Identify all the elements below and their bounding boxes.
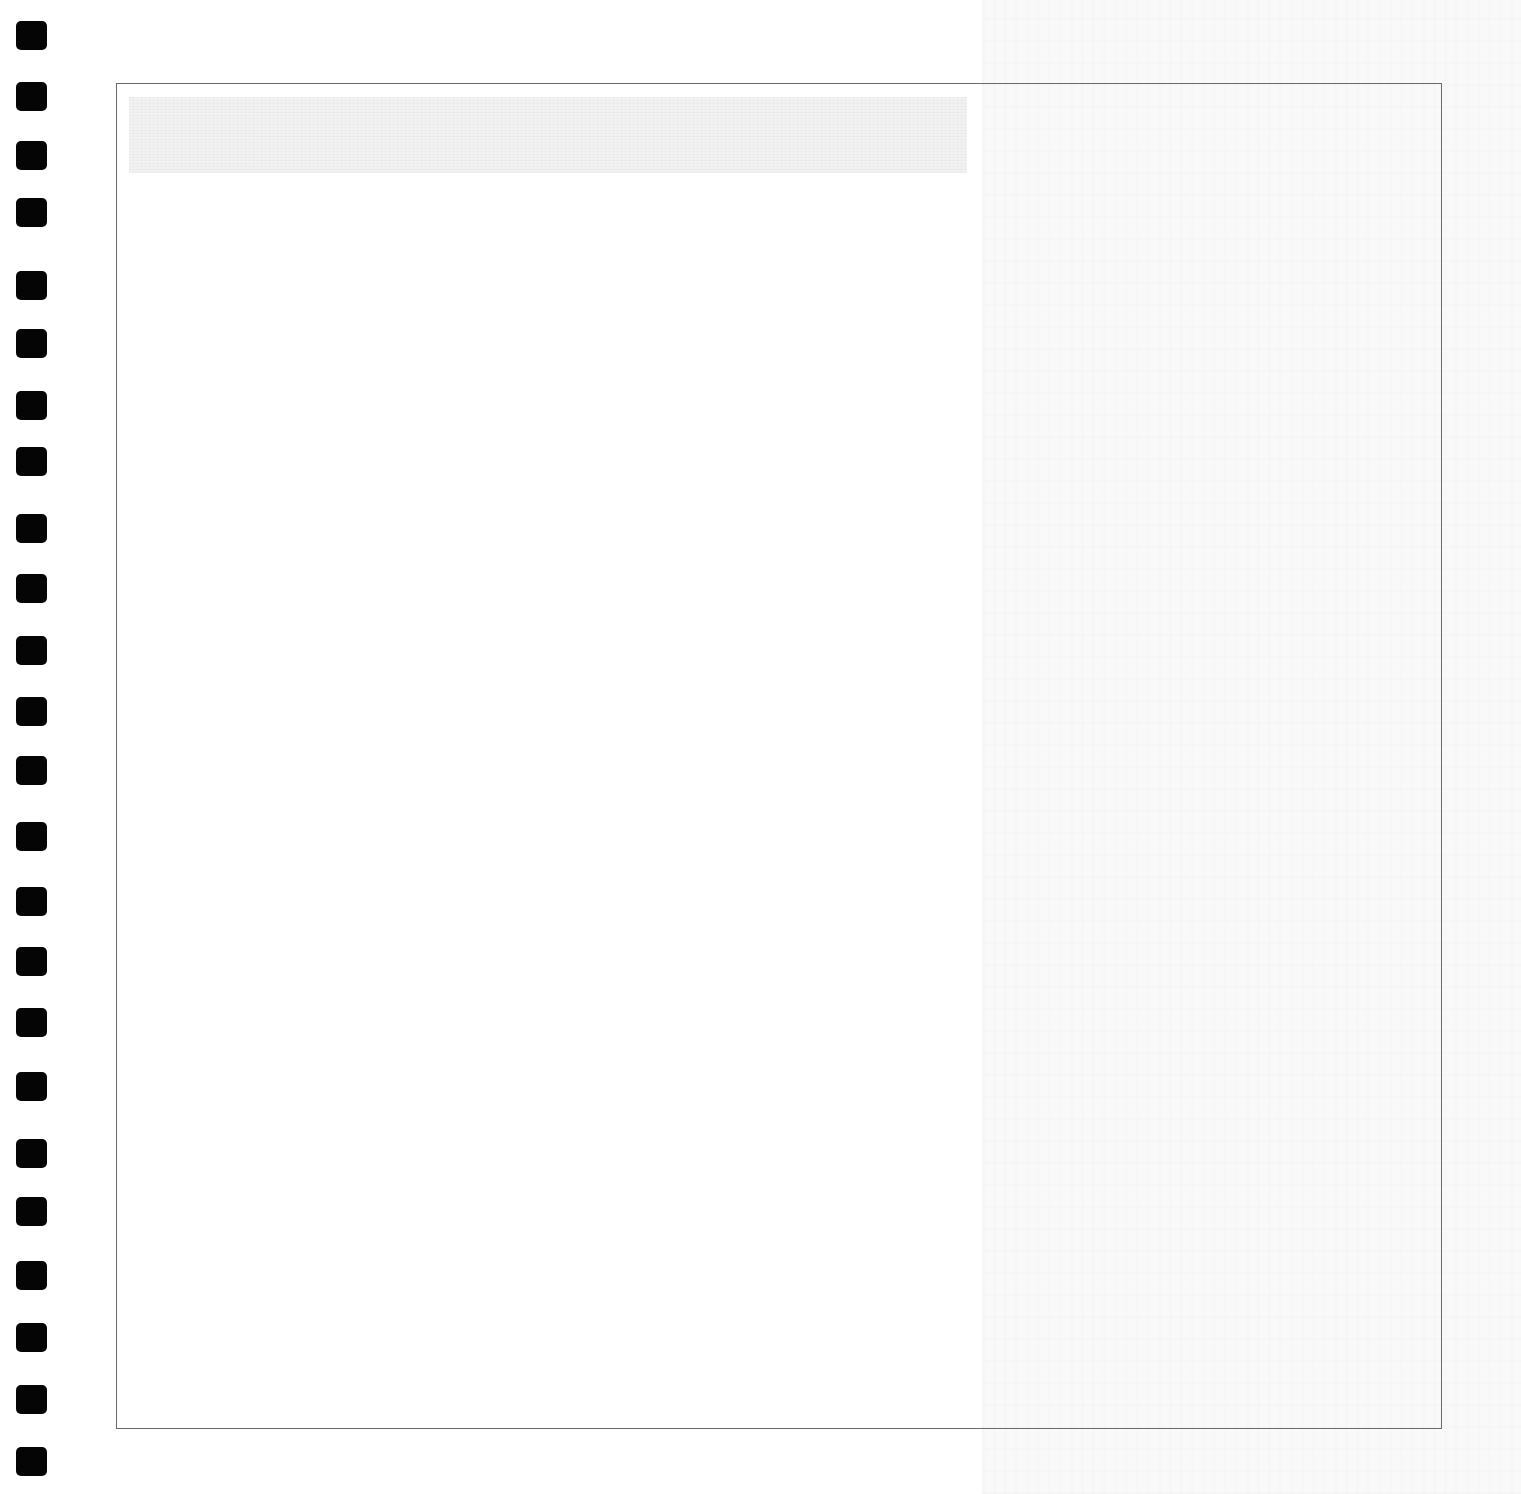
punch-hole (16, 514, 47, 543)
title-band (129, 97, 967, 173)
punch-hole (16, 574, 47, 603)
punch-hole (16, 822, 47, 851)
punch-hole (16, 82, 47, 111)
punch-hole (16, 1197, 47, 1226)
punch-hole (16, 141, 47, 170)
punch-hole (16, 1447, 47, 1476)
punch-hole (16, 447, 47, 476)
punch-hole (16, 1323, 47, 1352)
punch-hole (16, 391, 47, 420)
punch-hole (16, 756, 47, 785)
punch-hole (16, 1385, 47, 1414)
punch-hole (16, 1008, 47, 1037)
punch-hole (16, 636, 47, 665)
binder-punch-strip (0, 0, 70, 1494)
punch-hole (16, 21, 47, 50)
punch-hole (16, 1139, 47, 1168)
punch-hole (16, 947, 47, 976)
punch-hole (16, 887, 47, 916)
punch-hole (16, 697, 47, 726)
blank-writing-area (129, 184, 1429, 1416)
punch-hole (16, 1261, 47, 1290)
punch-hole (16, 1072, 47, 1101)
punch-hole (16, 271, 47, 300)
punch-hole (16, 329, 47, 358)
page-frame (116, 83, 1442, 1429)
punch-hole (16, 198, 47, 227)
